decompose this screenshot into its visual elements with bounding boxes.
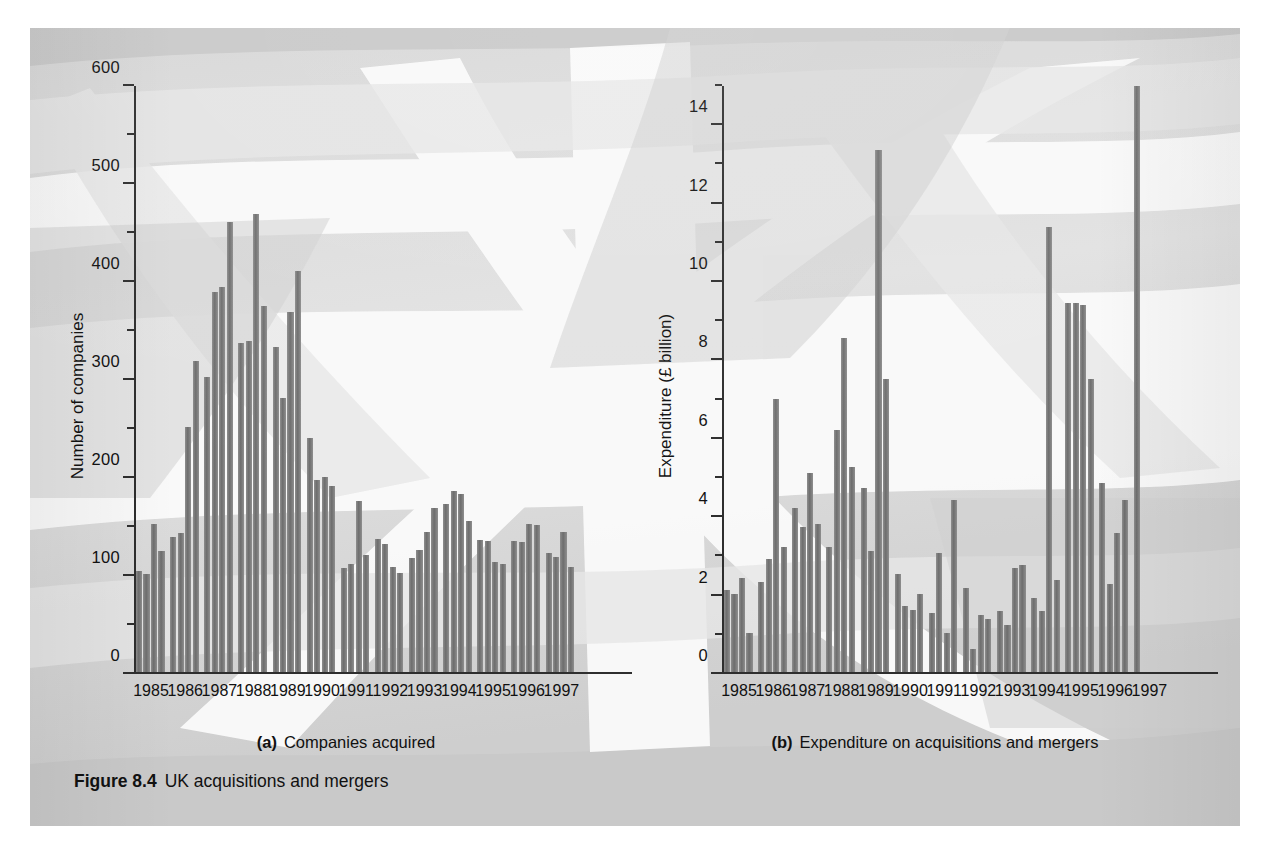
bar <box>397 573 403 672</box>
y-tick <box>127 133 134 135</box>
bar-group-1987 <box>204 86 238 672</box>
bar-group-1992 <box>375 86 409 672</box>
chart-b-y-axis-label: Expenditure (£ billion) <box>656 314 676 478</box>
bar <box>443 504 449 672</box>
bar <box>492 562 498 672</box>
bar-group-1986 <box>758 86 792 672</box>
bar <box>868 551 874 672</box>
bar <box>800 527 806 672</box>
bar <box>329 486 335 672</box>
chart-a-panel-letter: (a) <box>257 733 277 751</box>
bar-group-1991 <box>929 86 963 672</box>
x-tick-label-1996: 1996 <box>509 682 545 700</box>
bar <box>970 649 976 672</box>
chart-a-x-axis-line <box>134 672 632 674</box>
bar <box>773 399 779 672</box>
bar <box>431 508 437 672</box>
bar-group-1987 <box>792 86 826 672</box>
bar <box>849 467 855 672</box>
bar-group-1986 <box>170 86 204 672</box>
bar <box>219 287 225 672</box>
bar <box>902 606 908 672</box>
chart-a-plot-area: 0100200300400500600 <box>134 86 632 674</box>
y-tick <box>715 398 722 400</box>
y-tick <box>123 84 134 86</box>
bar <box>253 214 259 672</box>
x-tick-label-1990: 1990 <box>892 682 928 700</box>
x-tick-label-1985: 1985 <box>721 682 757 700</box>
x-tick-label-1992: 1992 <box>373 682 409 700</box>
y-tick-label: 4 <box>699 489 708 508</box>
y-tick <box>123 182 134 184</box>
bar-group-1996 <box>511 86 545 672</box>
x-tick-label-1997: 1997 <box>544 682 580 700</box>
bar <box>451 491 457 672</box>
y-tick <box>123 280 134 282</box>
bar <box>185 427 191 672</box>
x-tick-label-1997: 1997 <box>1132 682 1168 700</box>
bar <box>151 524 157 672</box>
bar <box>390 567 396 672</box>
bar <box>758 582 764 672</box>
bar-group-1995 <box>477 86 511 672</box>
bar-group-1996 <box>1099 86 1133 672</box>
bar-group-1988 <box>238 86 272 672</box>
bar <box>227 222 233 672</box>
bar <box>526 524 532 672</box>
bar <box>341 568 347 673</box>
bar-group-1994 <box>443 86 477 672</box>
bar <box>1073 303 1079 672</box>
bar <box>485 541 491 672</box>
y-tick <box>127 427 134 429</box>
bar <box>792 508 798 672</box>
x-tick-label-1996: 1996 <box>1097 682 1133 700</box>
bar <box>781 547 787 672</box>
bar <box>314 480 320 672</box>
bar <box>204 377 210 672</box>
bar <box>143 574 149 672</box>
bar <box>978 615 984 672</box>
chart-b-subcaption: (b)Expenditure on acquisitions and merge… <box>650 733 1220 752</box>
y-tick <box>123 672 134 674</box>
bar <box>560 532 566 672</box>
bar <box>348 564 354 672</box>
bar-group-1985 <box>136 86 170 672</box>
y-tick-label: 200 <box>92 450 120 469</box>
figure-panel: Number of companies 0100200300400500600 … <box>30 28 1240 826</box>
bar-group-1992 <box>963 86 997 672</box>
bar <box>951 500 957 672</box>
chart-a-bars <box>136 86 632 672</box>
bar <box>944 633 950 672</box>
bar <box>1004 625 1010 672</box>
bar-group-1997 <box>1134 86 1168 672</box>
x-tick-label-1988: 1988 <box>824 682 860 700</box>
y-tick <box>127 525 134 527</box>
x-tick-label-1987: 1987 <box>202 682 238 700</box>
bar <box>929 613 935 672</box>
bar-group-1995 <box>1065 86 1099 672</box>
x-tick-label-1993: 1993 <box>995 682 1031 700</box>
bar <box>356 501 362 672</box>
chart-a-y-axis-label: Number of companies <box>68 313 88 479</box>
bar-group-1988 <box>826 86 860 672</box>
bar <box>178 533 184 672</box>
y-tick <box>715 319 722 321</box>
bar <box>1099 483 1105 672</box>
chart-companies-acquired: Number of companies 0100200300400500600 … <box>56 46 636 746</box>
bar <box>731 594 737 672</box>
bar <box>500 564 506 672</box>
chart-b-caption-text: Expenditure on acquisitions and mergers <box>800 733 1099 751</box>
bar <box>287 312 293 672</box>
bar <box>917 594 923 672</box>
bar <box>1054 580 1060 672</box>
bar <box>307 438 313 672</box>
x-tick-label-1989: 1989 <box>270 682 306 700</box>
bar <box>1080 305 1086 672</box>
bar <box>261 306 267 672</box>
x-tick-label-1985: 1985 <box>133 682 169 700</box>
bar <box>1088 379 1094 672</box>
bar-group-1994 <box>1031 86 1065 672</box>
bar <box>511 541 517 672</box>
y-tick <box>711 202 722 204</box>
bar <box>280 398 286 672</box>
